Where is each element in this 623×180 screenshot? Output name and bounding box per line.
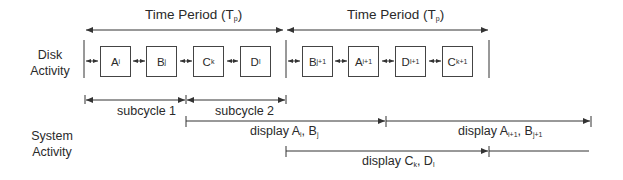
display-ai1-bj1-label: display Ai+1, Bj+1 — [458, 124, 542, 142]
time-period-2-label: Time Period (Tp) — [347, 7, 444, 26]
disk-activity-label: DiskActivity — [20, 47, 80, 79]
block-box: Ck — [193, 46, 224, 77]
block-box: Bj — [146, 46, 177, 77]
subcycle-2-label: subcycle 2 — [215, 104, 274, 119]
time-period-1-label: Time Period (Tp) — [145, 7, 242, 26]
disk-scheduling-timeline-diagram: Time Period (Tp) Time Period (Tp) DiskAc… — [0, 0, 623, 180]
block-box: Dl+1 — [395, 46, 426, 77]
block-box: Ck+1 — [442, 46, 473, 77]
display-ck-dl-label: display Ck, Dl — [362, 154, 434, 172]
block-box: Ai+1 — [348, 46, 379, 77]
display-ai-bj-label: display Ai, Bj — [250, 124, 318, 142]
subcycle-1-label: subcycle 1 — [117, 104, 176, 119]
block-box: Dl — [240, 46, 271, 77]
diagram-lines — [0, 0, 623, 180]
block-box: Ai — [100, 46, 131, 77]
system-activity-label: SystemActivity — [22, 128, 82, 160]
block-box: Bj+1 — [302, 46, 333, 77]
